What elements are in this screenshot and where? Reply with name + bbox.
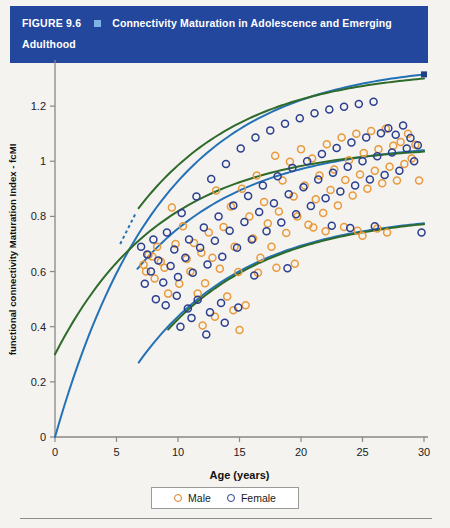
data-point-male xyxy=(384,229,391,236)
data-point-male xyxy=(209,254,216,261)
data-point-female xyxy=(188,314,195,321)
data-point-male xyxy=(342,177,349,184)
x-axis-title: Age (years) xyxy=(210,469,270,481)
data-point-male xyxy=(353,130,360,137)
chart-area: 00.20.40.60.811.2051015202530Age (years)… xyxy=(0,52,450,492)
data-point-female xyxy=(381,172,388,179)
data-point-male xyxy=(416,177,423,184)
data-point-female xyxy=(293,211,300,218)
data-point-female xyxy=(163,229,170,236)
scatter-plot-svg: 00.20.40.60.811.2051015202530Age (years)… xyxy=(0,52,450,492)
data-point-female xyxy=(311,110,318,117)
data-point-female xyxy=(222,161,229,168)
data-point-female xyxy=(175,274,182,281)
x-tick-label: 20 xyxy=(295,446,307,458)
data-point-female xyxy=(296,115,303,122)
data-point-male xyxy=(401,161,408,168)
x-tick-label: 15 xyxy=(233,446,245,458)
data-point-male xyxy=(312,196,319,203)
x-tick-label: 30 xyxy=(418,446,430,458)
data-point-male xyxy=(368,127,375,134)
data-point-female xyxy=(392,131,399,138)
data-point-female xyxy=(400,122,407,129)
data-point-female xyxy=(206,309,213,316)
data-point-female xyxy=(162,302,169,309)
y-tick-label: 0 xyxy=(40,431,46,443)
y-tick-label: 1 xyxy=(40,155,46,167)
data-point-male xyxy=(364,185,371,192)
data-point-male xyxy=(322,228,329,235)
legend-item-male: Male xyxy=(174,492,211,504)
data-point-female xyxy=(370,98,377,105)
data-point-female xyxy=(147,268,154,275)
data-point-female xyxy=(193,193,200,200)
data-point-male xyxy=(268,243,275,250)
data-point-male xyxy=(371,167,378,174)
data-point-male xyxy=(236,327,243,334)
data-point-female xyxy=(344,163,351,170)
data-point-male xyxy=(168,204,175,211)
data-point-female xyxy=(160,279,167,286)
data-point-female xyxy=(141,280,148,287)
data-point-female xyxy=(322,195,329,202)
data-point-female xyxy=(326,106,333,113)
y-tick-label: 0.8 xyxy=(31,210,46,222)
data-point-female xyxy=(267,127,274,134)
data-point-female xyxy=(263,228,270,235)
data-point-female xyxy=(252,134,259,141)
square-bullet-icon xyxy=(94,20,101,27)
data-point-female xyxy=(333,145,340,152)
data-point-female xyxy=(348,139,355,146)
data-point-female xyxy=(200,224,207,231)
data-point-female xyxy=(245,193,252,200)
data-point-female xyxy=(270,200,277,207)
x-tick-label: 25 xyxy=(356,446,368,458)
data-point-female xyxy=(363,134,370,141)
y-tick-label: 1.2 xyxy=(31,100,46,112)
lower-fit-blue xyxy=(139,223,424,362)
data-point-male xyxy=(360,149,367,156)
data-point-female xyxy=(173,292,180,299)
data-point-male xyxy=(199,322,206,329)
series-female xyxy=(138,98,425,338)
data-point-female xyxy=(152,296,159,303)
y-tick-label: 0.2 xyxy=(31,376,46,388)
data-point-male xyxy=(357,171,364,178)
data-point-male xyxy=(261,199,268,206)
female-marker-icon xyxy=(227,494,235,502)
data-point-male xyxy=(224,293,231,300)
data-point-female xyxy=(215,213,222,220)
data-point-female xyxy=(359,158,366,165)
data-point-female xyxy=(150,236,157,243)
data-point-female xyxy=(221,319,228,326)
data-point-female xyxy=(226,227,233,234)
data-point-male xyxy=(216,265,223,272)
data-point-male xyxy=(291,260,298,267)
data-point-female xyxy=(256,209,263,216)
data-point-male xyxy=(273,264,280,271)
data-point-female xyxy=(396,167,403,174)
data-point-male xyxy=(327,186,334,193)
data-point-male xyxy=(397,138,404,145)
data-point-female xyxy=(337,188,344,195)
data-point-female xyxy=(241,218,248,225)
data-point-male xyxy=(283,229,290,236)
data-point-female xyxy=(418,229,425,236)
page-divider xyxy=(20,518,432,519)
upper-fit-green xyxy=(139,79,424,209)
data-point-male xyxy=(176,280,183,287)
data-point-female xyxy=(219,253,226,260)
data-point-female xyxy=(208,175,215,182)
data-point-female xyxy=(211,237,218,244)
legend-label-female: Female xyxy=(241,492,276,504)
data-point-female xyxy=(237,145,244,152)
x-tick-label: 5 xyxy=(113,446,119,458)
data-point-male xyxy=(334,202,341,209)
figure-number: FIGURE 9.6 xyxy=(22,17,81,29)
data-point-female xyxy=(328,222,335,229)
data-point-female xyxy=(355,100,362,107)
data-point-male xyxy=(390,142,397,149)
y-tick-label: 0.6 xyxy=(31,266,46,278)
y-tick-label: 0.4 xyxy=(31,321,46,333)
data-point-female xyxy=(282,120,289,127)
